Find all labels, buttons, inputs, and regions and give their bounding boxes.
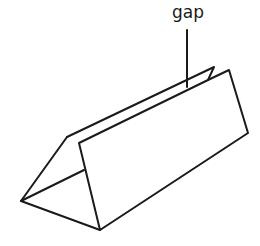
inner-fold-line	[21, 170, 84, 201]
left-back-edge	[21, 137, 67, 201]
prism-drawing	[0, 0, 260, 246]
back-ridge-edge	[67, 67, 214, 137]
front-face	[79, 70, 248, 230]
bottom-left-edge	[21, 201, 100, 230]
